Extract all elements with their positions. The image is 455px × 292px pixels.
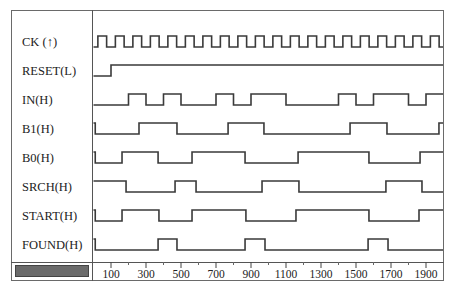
tick-label: 1500 — [345, 268, 368, 280]
waveform-reset — [94, 65, 444, 76]
waveform-ck — [94, 36, 444, 47]
tick-label: 300 — [137, 268, 154, 280]
tick-label: 900 — [242, 268, 259, 280]
tick-label: 1100 — [275, 268, 298, 280]
waveform-in — [94, 94, 444, 105]
waveform-start — [94, 210, 444, 221]
tick-label: 100 — [102, 268, 119, 280]
tick-label: 1300 — [310, 268, 333, 280]
waveform-srch — [94, 181, 444, 192]
waveform-found — [94, 239, 444, 250]
tick-label: 500 — [172, 268, 189, 280]
waveform-b0 — [94, 152, 444, 163]
waveform-area — [0, 0, 455, 292]
waveform-b1 — [94, 123, 444, 134]
tick-label: 700 — [207, 268, 224, 280]
tick-label: 1900 — [415, 268, 438, 280]
tick-label: 1700 — [380, 268, 403, 280]
